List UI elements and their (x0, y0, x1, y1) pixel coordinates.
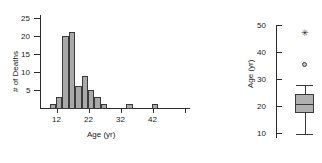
boxplot-y-axis-title: Age (yr) (247, 60, 255, 88)
histogram-x-tick-22: 22 (84, 116, 93, 124)
histogram-bar (126, 104, 132, 109)
histogram-x-axis-title: Age (yr) (87, 131, 115, 139)
boxplot-y-axis-line (276, 25, 277, 138)
boxplot-y-tick-30: 30 (257, 76, 266, 84)
boxplot-y-tick-10: 10 (257, 130, 266, 138)
figure-root: # of Deaths 25 20 15 10 5 12 22 32 42 Ag… (0, 0, 322, 163)
histogram-y-tickmark-5 (34, 90, 40, 91)
boxplot-upper-whisker (305, 85, 306, 94)
boxplot-y-tickmark-50 (276, 25, 282, 26)
histogram-y-tick-25: 25 (21, 15, 30, 23)
boxplot-upper-whisker-cap (296, 85, 313, 86)
boxplot-outlier-extreme-marker: ✳ (301, 29, 309, 38)
histogram-bar (152, 104, 158, 109)
boxplot-y-tickmark-20 (276, 106, 282, 107)
histogram-y-axis-line (40, 15, 41, 109)
histogram-y-tickmark-20 (34, 36, 40, 37)
histogram-y-tick-15: 15 (21, 51, 30, 59)
boxplot-lower-whisker-cap (296, 134, 313, 135)
histogram-x-tickmark-end (185, 108, 186, 113)
histogram-y-tickmark-10 (34, 72, 40, 73)
histogram-x-tick-32: 32 (116, 116, 125, 124)
boxplot-y-tick-50: 50 (257, 22, 266, 30)
boxplot-outlier-mild-marker (302, 62, 307, 67)
histogram-x-tick-42: 42 (148, 116, 157, 124)
histogram-y-axis-title: # of Deaths (12, 51, 20, 92)
histogram-panel: # of Deaths 25 20 15 10 5 12 22 32 42 Ag… (0, 0, 200, 163)
histogram-y-tick-20: 20 (21, 33, 30, 41)
histogram-y-tick-10: 10 (21, 69, 30, 77)
boxplot-panel: Age (yr) 50 40 30 20 10 ✳ (200, 0, 322, 163)
boxplot-median-line (295, 104, 314, 105)
boxplot-y-tick-20: 20 (257, 103, 266, 111)
histogram-y-tickmark-25 (34, 18, 40, 19)
histogram-y-tick-5: 5 (26, 87, 30, 95)
boxplot-y-tickmark-10 (276, 133, 282, 134)
histogram-bar (101, 104, 107, 109)
histogram-x-tick-12: 12 (52, 116, 61, 124)
boxplot-y-tickmark-30 (276, 79, 282, 80)
boxplot-y-tick-40: 40 (257, 49, 266, 57)
histogram-y-tickmark-15 (34, 54, 40, 55)
boxplot-y-tickmark-40 (276, 52, 282, 53)
boxplot-lower-whisker (305, 112, 306, 134)
histogram-x-tickmark-32 (121, 108, 122, 113)
